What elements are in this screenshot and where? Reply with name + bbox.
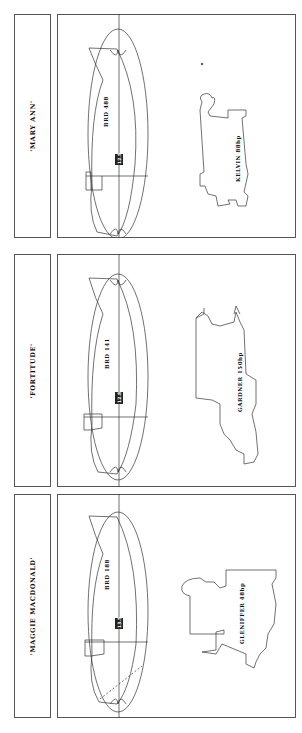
station-label: 13.5	[117, 617, 122, 628]
hull-waterline-ellipse	[88, 512, 148, 712]
station-label: 12.5	[117, 153, 122, 164]
panel-maggie-macdonald: 'MAGGIE MACDONALD' 13.5 BRD 188 GLENIFFE…	[0, 494, 302, 718]
panel-fortitude: 'FORTITUDE' 12.8 BRD 141 GARDNER 150hp	[0, 254, 302, 487]
hull-waterline-ellipse	[88, 274, 148, 480]
engine-label: KELVIN 88hp	[235, 135, 242, 182]
station-label: 12.8	[117, 392, 122, 403]
hull-profile	[89, 48, 136, 236]
hull-label: BRD 188	[104, 559, 110, 590]
hull-waterline-ellipse	[88, 29, 148, 238]
dashed-shaft-line	[100, 666, 142, 699]
hull-and-engine-drawing: 12.5 BRD 488 KELVIN 88hp	[0, 14, 302, 238]
gardner-engine-outline	[196, 312, 258, 464]
hull-and-engine-drawing: 13.5 BRD 188 GLENIFFER 48hp	[0, 494, 302, 718]
hull-and-engine-drawing: 12.8 BRD 141 GARDNER 150hp	[0, 254, 302, 487]
gleniffer-engine-outline	[182, 570, 276, 668]
hull-label: BRD 141	[104, 338, 110, 369]
engine-label: GLENIFFER 48hp	[239, 583, 246, 644]
engine-label: GARDNER 150hp	[237, 352, 244, 412]
hull-label: BRD 488	[103, 96, 109, 127]
panel-mary-ann: 'MARY ANN' 12.5 BRD 488 KELVIN 88hp	[0, 14, 302, 238]
